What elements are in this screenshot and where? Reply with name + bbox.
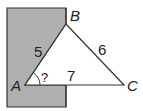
triangle-diagram: A B C 5 6 7 ? [0, 0, 143, 111]
side-label-ac: 7 [67, 67, 75, 84]
point-label-b: B [70, 7, 80, 24]
point-label-c: C [127, 77, 138, 94]
point-label-a: A [10, 77, 21, 94]
side-label-ab: 5 [34, 43, 42, 60]
side-label-bc: 6 [98, 41, 106, 58]
angle-label-a: ? [41, 70, 48, 85]
